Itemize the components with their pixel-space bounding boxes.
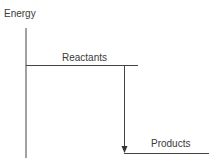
energy-diagram: [0, 0, 220, 161]
arrow-head-icon: [122, 146, 128, 153]
